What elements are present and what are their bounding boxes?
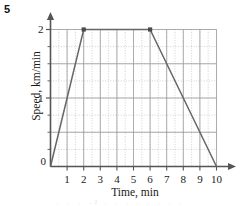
origin-label: 0 bbox=[41, 156, 47, 167]
x-tick-label: 3 bbox=[92, 174, 108, 185]
x-tick-label: 4 bbox=[109, 174, 125, 185]
grid-major-lines bbox=[51, 30, 217, 167]
x-tick-label: 5 bbox=[126, 174, 142, 185]
y-tick-label: 2 bbox=[30, 24, 44, 35]
x-tick-label: 7 bbox=[159, 174, 175, 185]
x-tick-label: 10 bbox=[209, 174, 225, 185]
y-tick-label: 1 bbox=[30, 93, 44, 104]
axis-lines bbox=[47, 12, 236, 170]
y-axis-title: Speed, km/min bbox=[30, 26, 42, 146]
x-tick-label: 8 bbox=[175, 174, 191, 185]
x-tick-label: 6 bbox=[142, 174, 158, 185]
x-axis-title: Time, min bbox=[55, 186, 215, 199]
page-bleed-text: · · · ·² · · · · · · · · bbox=[0, 200, 242, 206]
x-tick-label: 1 bbox=[59, 174, 75, 185]
speed-time-graph-figure: 5 Speed, km/min Time, min 0 12345678910 … bbox=[0, 0, 242, 206]
x-tick-label: 2 bbox=[76, 174, 92, 185]
x-tick-label: 9 bbox=[192, 174, 208, 185]
